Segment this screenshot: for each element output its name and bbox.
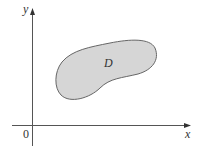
region-label: D <box>103 56 113 70</box>
region-diagram: D y x 0 <box>0 0 204 157</box>
origin-label: 0 <box>23 127 29 141</box>
y-axis-arrow-icon <box>30 8 35 15</box>
x-axis-label: x <box>184 127 191 141</box>
y-axis-label: y <box>22 2 29 16</box>
